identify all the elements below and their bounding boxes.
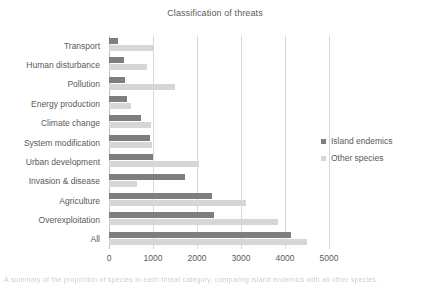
chart-container: Classification of threats TransportHuman… <box>0 0 430 292</box>
legend-label: Other species <box>331 153 383 163</box>
bar-other-species <box>109 161 199 167</box>
bar-other-species <box>109 219 278 225</box>
bar-other-species <box>109 103 131 109</box>
x-tick-label: 2000 <box>188 253 207 263</box>
x-tick-label: 0 <box>107 253 112 263</box>
bar-other-species <box>109 45 153 51</box>
y-axis-label: Energy production <box>0 99 100 109</box>
y-axis-label: Transport <box>0 41 100 51</box>
bar-island-endemics <box>109 96 127 102</box>
bar-group <box>109 94 329 113</box>
plot-area <box>109 36 329 249</box>
bar-group <box>109 152 329 171</box>
x-tick-label: 3000 <box>232 253 251 263</box>
x-tick-label: 1000 <box>144 253 163 263</box>
x-axis-tick-labels: 010002000300040005000 <box>109 253 339 267</box>
bar-group <box>109 230 329 249</box>
legend-swatch-icon <box>321 139 326 144</box>
x-tick-label: 5000 <box>320 253 339 263</box>
bar-island-endemics <box>109 154 153 160</box>
bar-island-endemics <box>109 77 125 83</box>
chart-legend: Island endemicsOther species <box>321 136 429 170</box>
bar-island-endemics <box>109 174 185 180</box>
bar-other-species <box>109 122 151 128</box>
legend-label: Island endemics <box>331 136 392 146</box>
y-axis-label: Urban development <box>0 157 100 167</box>
y-axis-label: Invasion & disease <box>0 176 100 186</box>
bar-group <box>109 55 329 74</box>
bar-island-endemics <box>109 212 214 218</box>
bar-other-species <box>109 64 147 70</box>
y-axis-label: Climate change <box>0 118 100 128</box>
y-axis-label: All <box>0 234 100 244</box>
bar-other-species <box>109 239 307 245</box>
chart-title: Classification of threats <box>0 8 430 18</box>
legend-swatch-icon <box>321 156 326 161</box>
legend-item[interactable]: Other species <box>321 153 429 163</box>
bar-island-endemics <box>109 38 118 44</box>
bar-other-species <box>109 142 152 148</box>
bar-island-endemics <box>109 193 212 199</box>
bar-group <box>109 133 329 152</box>
bar-group <box>109 191 329 210</box>
x-tick-label: 4000 <box>276 253 295 263</box>
bar-group <box>109 36 329 55</box>
figure-caption: A summary of the proportion of species i… <box>0 276 430 292</box>
bar-other-species <box>109 200 246 206</box>
bar-island-endemics <box>109 135 150 141</box>
y-axis-label: System modification <box>0 138 100 148</box>
y-axis-label: Overexploitation <box>0 215 100 225</box>
bar-island-endemics <box>109 232 291 238</box>
y-axis-label: Pollution <box>0 79 100 89</box>
legend-item[interactable]: Island endemics <box>321 136 429 146</box>
bar-group <box>109 75 329 94</box>
bar-other-species <box>109 181 137 187</box>
y-axis-category-labels: TransportHuman disturbancePollutionEnerg… <box>0 36 104 249</box>
bar-other-species <box>109 84 175 90</box>
y-axis-label: Agriculture <box>0 196 100 206</box>
bar-island-endemics <box>109 115 141 121</box>
bar-group <box>109 172 329 191</box>
y-axis-label: Human disturbance <box>0 60 100 70</box>
bar-rows <box>109 36 329 249</box>
bar-group <box>109 210 329 229</box>
caption-text: A summary of the proportion of species i… <box>0 276 430 283</box>
bar-island-endemics <box>109 57 124 63</box>
bar-group <box>109 113 329 132</box>
